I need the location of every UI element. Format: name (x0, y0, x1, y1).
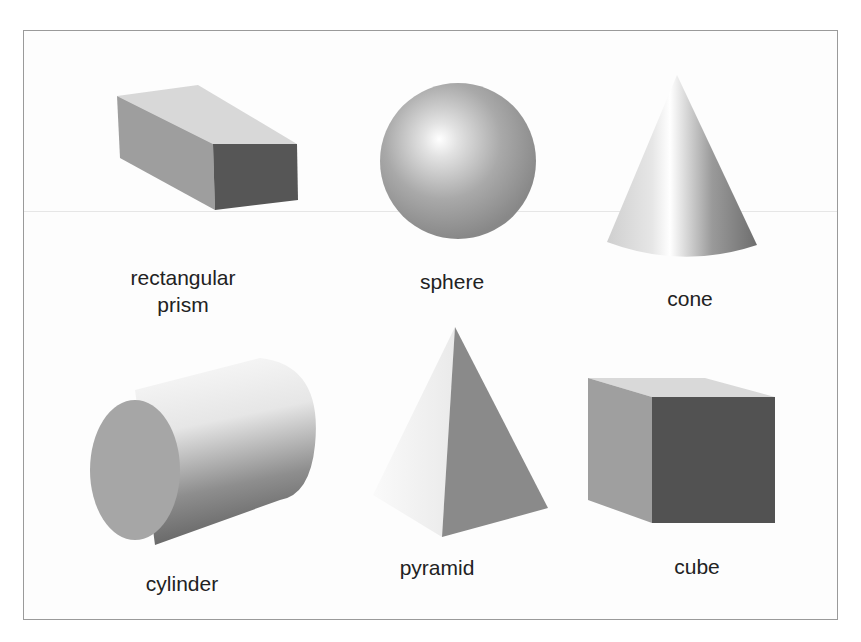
pyramid-figure (370, 325, 555, 540)
rectangular-prism-figure (110, 80, 305, 215)
sphere-figure (378, 80, 538, 245)
rectangular-prism-label: rectangular prism (130, 264, 235, 318)
cylinder-figure (85, 355, 325, 545)
cylinder-label: cylinder (146, 570, 218, 597)
cube-figure (585, 375, 780, 525)
cube-label: cube (674, 553, 720, 580)
cone-label: cone (667, 285, 713, 312)
pyramid-label: pyramid (400, 554, 475, 581)
sphere-label: sphere (420, 268, 484, 295)
cone-figure (605, 70, 760, 270)
